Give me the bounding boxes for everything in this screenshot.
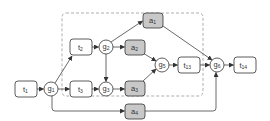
node-g5: g5 [155, 58, 169, 72]
node-a4: a4 [125, 104, 145, 119]
node-a1: a1 [143, 13, 163, 28]
node-g2: g2 [99, 40, 113, 54]
edges [37, 21, 234, 111]
node-t3: t3 [70, 81, 92, 97]
edge-a1-g6 [163, 26, 212, 60]
node-a2: a2 [125, 40, 145, 55]
node-t14: t14 [234, 57, 256, 73]
node-g1: g1 [44, 82, 58, 96]
node-a3: a3 [125, 81, 145, 96]
node-t13: t13 [178, 57, 200, 73]
workflow-diagram: t1 t2 t3 t13 t14 g1 g2 g3 g5 g6 a1 [0, 0, 270, 121]
edge-g1-a4 [52, 96, 125, 111]
node-t1: t1 [15, 81, 37, 97]
node-g6: g6 [210, 58, 224, 72]
edge-a3-g5 [143, 69, 156, 81]
node-g3: g3 [99, 82, 113, 96]
node-t2: t2 [70, 39, 92, 55]
edge-a2-g5 [143, 53, 156, 61]
edge-a4-g6 [145, 73, 216, 112]
edge-g1-t2 [55, 56, 72, 83]
edge-g2-a1 [111, 21, 143, 42]
